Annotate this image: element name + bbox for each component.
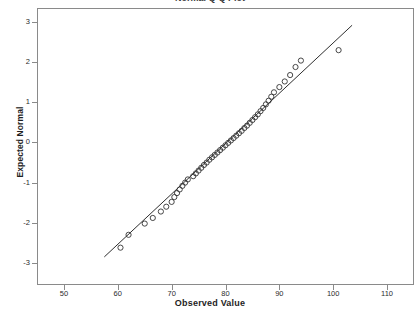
y-tick-mark [32,22,37,23]
x-tick-label: 110 [374,289,400,298]
data-point [174,190,179,195]
data-point [282,79,287,84]
data-point [177,187,182,192]
x-tick-label: 70 [159,289,185,298]
x-tick-mark [172,285,173,290]
y-tick-label: -2 [8,218,30,227]
y-tick-label: 2 [8,57,30,66]
y-tick-label: 3 [8,17,30,26]
plot-canvas [37,8,414,285]
data-point [336,48,341,53]
x-tick-mark [64,285,65,290]
y-tick-mark [32,263,37,264]
x-tick-label: 90 [266,289,292,298]
data-point [277,84,282,89]
x-tick-mark [333,285,334,290]
x-axis-title: Observed Value [0,298,420,308]
chart-title: Normal Q-Q Plot [0,0,420,3]
y-tick-mark [32,223,37,224]
data-point [288,72,293,77]
y-tick-mark [32,102,37,103]
y-tick-label: -3 [8,258,30,267]
x-tick-label: 80 [213,289,239,298]
y-tick-mark [32,183,37,184]
data-point [150,215,155,220]
x-tick-mark [226,285,227,290]
y-tick-label: 1 [8,97,30,106]
y-tick-mark [32,142,37,143]
x-tick-label: 60 [105,289,131,298]
y-tick-label: 0 [8,137,30,146]
x-tick-mark [279,285,280,290]
qq-plot-chart: Normal Q-Q Plot Expected Normal Observed… [0,0,420,315]
data-point [142,221,147,226]
data-point [164,204,169,209]
data-point [293,64,298,69]
data-points [118,48,341,251]
data-point [169,199,174,204]
data-point [158,209,163,214]
x-tick-mark [118,285,119,290]
y-tick-label: -1 [8,178,30,187]
data-point [298,58,303,63]
data-point [118,245,123,250]
x-tick-mark [387,285,388,290]
data-point [271,90,276,95]
chart-title-clipped: Normal Q-Q Plot [0,0,420,5]
y-tick-mark [32,62,37,63]
x-tick-label: 100 [320,289,346,298]
x-tick-label: 50 [51,289,77,298]
